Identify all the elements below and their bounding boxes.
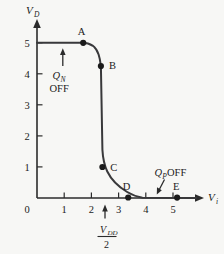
point-marker-b <box>98 63 104 69</box>
qp-off-label-main: Q <box>155 167 163 178</box>
vtc-figure: 5 4 3 2 1 0 1 2 3 4 5 V D V i <box>0 0 224 254</box>
x-tick-labels: 1 2 3 4 5 <box>62 204 176 215</box>
vtc-chart-svg: 5 4 3 2 1 0 1 2 3 4 5 V D V i <box>0 0 224 254</box>
y-axis-title: V D <box>26 4 40 19</box>
point-marker-e <box>174 195 180 201</box>
y-tick-label-5: 5 <box>24 38 29 49</box>
x-axis-title: V i <box>208 191 218 206</box>
annotation-qp-off: Q P OFF <box>155 167 187 195</box>
point-label-a: A <box>78 26 86 37</box>
qp-off-arrow-line <box>159 180 165 191</box>
qn-off-label-state: OFF <box>50 83 69 94</box>
point-marker-d <box>125 194 131 200</box>
y-tick-label-4: 4 <box>24 69 30 80</box>
y-tick-label-0: 0 <box>24 204 29 215</box>
vdd-over-2-marker: V DD 2 <box>98 205 118 251</box>
qn-off-arrowhead <box>60 48 66 55</box>
x-axis-title-sub: i <box>216 197 218 206</box>
annotation-qn-off: Q N OFF <box>50 48 69 94</box>
y-tick-label-3: 3 <box>24 100 29 111</box>
y-axis-title-main: V <box>26 4 34 16</box>
point-label-b: B <box>109 60 116 71</box>
x-tick-label-1: 1 <box>62 204 67 215</box>
y-axis-arrowhead <box>33 19 41 28</box>
point-label-e: E <box>173 181 179 192</box>
x-axis-title-main: V <box>208 191 216 203</box>
y-tick-label-2: 2 <box>24 131 29 142</box>
x-tick-label-5: 5 <box>170 204 175 215</box>
point-label-c: C <box>110 162 117 173</box>
vdd-marker-arrowhead <box>102 205 108 212</box>
point-labels: A B C D E <box>78 26 180 192</box>
x-tick-label-2: 2 <box>89 204 94 215</box>
point-label-d: D <box>123 181 131 192</box>
x-tick-label-3: 3 <box>116 204 121 215</box>
x-tick-label-4: 4 <box>143 204 149 215</box>
vdd-numerator-sub: DD <box>107 229 118 237</box>
point-marker-a <box>80 40 86 46</box>
qn-off-label-main: Q <box>53 70 61 81</box>
y-axis-ticks <box>37 43 43 167</box>
y-tick-labels: 5 4 3 2 1 0 <box>24 38 30 216</box>
y-tick-label-1: 1 <box>24 162 29 173</box>
point-marker-c <box>99 164 105 170</box>
qp-off-label-state: OFF <box>167 167 186 178</box>
y-axis-title-sub: D <box>33 10 40 19</box>
vdd-denominator: 2 <box>104 239 109 250</box>
